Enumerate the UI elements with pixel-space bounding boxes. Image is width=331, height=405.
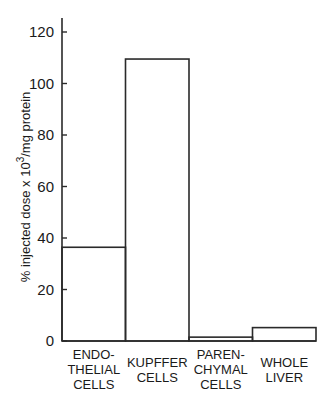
y-tick-label: 100 bbox=[29, 75, 54, 92]
x-category-label: THELIAL bbox=[67, 362, 120, 377]
bar bbox=[189, 337, 253, 341]
x-category-label: ENDO- bbox=[73, 347, 115, 362]
y-axis-label: % injected dose x 103/mg protein bbox=[15, 92, 33, 283]
x-category-label: LIVER bbox=[265, 370, 303, 385]
x-category-label: WHOLE bbox=[260, 355, 308, 370]
x-category-label: CELLS bbox=[73, 377, 115, 392]
x-category-label: KUPFFER bbox=[127, 355, 188, 370]
bar bbox=[253, 328, 317, 341]
y-tick-label: 60 bbox=[37, 178, 54, 195]
y-axis-label-main: % injected dose x 10 bbox=[18, 162, 33, 282]
y-tick-label: 120 bbox=[29, 23, 54, 40]
y-axis-label-tail: /mg protein bbox=[18, 92, 33, 157]
bar-chart: % injected dose x 103/mg protein 0204060… bbox=[0, 0, 331, 405]
y-tick-label: 0 bbox=[46, 332, 54, 349]
y-tick-label: 40 bbox=[37, 229, 54, 246]
x-category-label: CELLS bbox=[137, 370, 179, 385]
x-category-label: CELLS bbox=[200, 377, 242, 392]
y-tick-label: 80 bbox=[37, 126, 54, 143]
x-category-label: CHYMAL bbox=[194, 362, 248, 377]
y-tick-label: 20 bbox=[37, 281, 54, 298]
x-category-label: PAREN- bbox=[197, 347, 245, 362]
bar bbox=[126, 59, 190, 341]
bar bbox=[62, 247, 126, 341]
